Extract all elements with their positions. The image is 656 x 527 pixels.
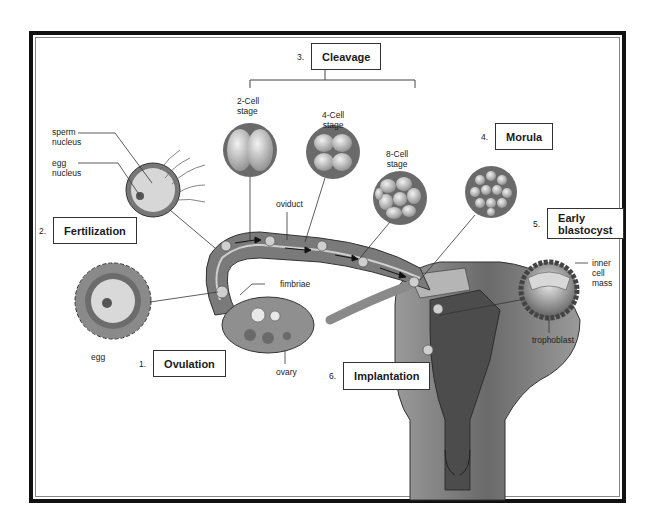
- step-label: Cleavage: [311, 43, 381, 70]
- step-number: 1.: [139, 359, 146, 369]
- step-number: 3.: [297, 52, 304, 62]
- step-implantation: 6. Implantation: [329, 362, 430, 390]
- step-label: Early blastocyst: [547, 208, 623, 239]
- inner-cell-mass-label: inner cell mass: [592, 258, 612, 288]
- two-cell-embryo: [223, 123, 277, 177]
- step-cleavage: 3. Cleavage: [297, 43, 381, 70]
- reproduction-illustration: [0, 0, 656, 527]
- two-cell-stage-label: 2-Cell stage: [237, 96, 259, 116]
- eight-cell-stage-label: 8-Cell stage: [386, 149, 408, 169]
- step-number: 5.: [533, 219, 540, 229]
- trophoblast-label: trophoblast: [532, 335, 574, 345]
- four-cell-embryo: [306, 125, 360, 179]
- fertilization-egg: [126, 150, 205, 217]
- cleavage-bracket: [250, 70, 415, 88]
- blastocyst-embryo: [521, 262, 577, 318]
- ovary: [222, 297, 314, 353]
- eight-cell-embryo: [373, 171, 427, 225]
- step-morula: 4. Morula: [481, 123, 553, 150]
- four-cell-stage-label: 4-Cell stage: [322, 110, 344, 130]
- step-label: Ovulation: [153, 350, 226, 377]
- step-label: Fertilization: [53, 217, 137, 244]
- step-label: Implantation: [343, 362, 430, 390]
- step-number: 4.: [481, 132, 488, 142]
- step-ovulation: 1. Ovulation: [139, 350, 226, 377]
- oviduct-label: oviduct: [276, 199, 303, 209]
- morula-embryo: [465, 166, 517, 218]
- ovulated-egg: [75, 263, 151, 339]
- fimbriae-label: fimbriae: [280, 279, 310, 289]
- ovary-label: ovary: [276, 367, 297, 377]
- step-number: 2.: [39, 226, 46, 236]
- step-number: 6.: [329, 371, 336, 381]
- step-fertilization: 2. Fertilization: [39, 217, 137, 244]
- egg-label: egg: [91, 352, 105, 362]
- step-label: Morula: [495, 123, 553, 150]
- sperm-nucleus-label: sperm nucleus: [52, 127, 81, 147]
- step-early-blastocyst: 5. Early blastocyst: [533, 208, 624, 239]
- egg-nucleus-label: egg nucleus: [52, 158, 81, 178]
